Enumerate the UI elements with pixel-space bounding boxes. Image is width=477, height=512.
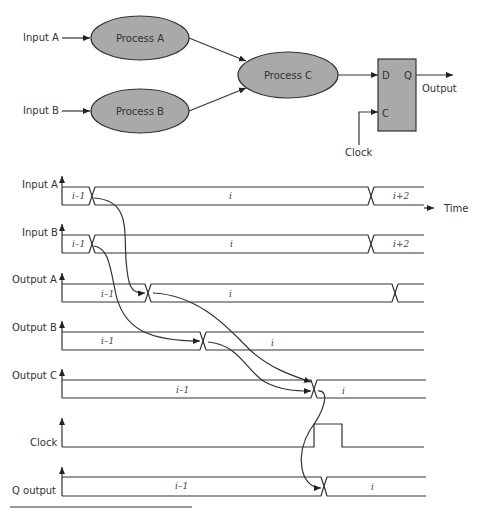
signal-label: Output C xyxy=(12,370,57,381)
segment-label: i–1 xyxy=(175,481,188,491)
flipflop-c-label: C xyxy=(382,108,389,119)
segment-label: i xyxy=(371,482,374,492)
signal-q-output: Q output i–1 i xyxy=(12,467,426,496)
segment-label: i+2 xyxy=(393,191,409,201)
clock-label: Clock xyxy=(345,147,372,158)
segment-label: i–1 xyxy=(176,385,189,395)
signal-label: Input B xyxy=(22,227,58,238)
segment-label: i xyxy=(271,338,274,348)
output-label: Output xyxy=(422,83,457,94)
segment-label: i xyxy=(342,386,345,396)
signal-label: Output B xyxy=(12,322,57,333)
signal-output-b: Output B i–1 i xyxy=(12,321,424,350)
clock-input-arrow xyxy=(359,112,378,145)
input-a-label: Input A xyxy=(23,32,59,43)
segment-label: i xyxy=(229,289,232,299)
segment-label: i–1 xyxy=(101,289,114,299)
input-b-label: Input B xyxy=(23,105,59,116)
process-a-label: Process A xyxy=(116,33,164,44)
segment-label: i xyxy=(229,191,232,201)
signal-label: Output A xyxy=(12,274,57,285)
signal-input-b: Input B i–1 i i+2 xyxy=(22,224,424,253)
timing-diagram: Input A Time i–1 i i+2 Input B i–1 i i+2… xyxy=(12,176,468,496)
flipflop-d-label: D xyxy=(382,70,390,81)
signal-output-c: Output C i–1 i xyxy=(12,369,426,398)
segment-label: i+2 xyxy=(393,239,409,249)
output-a-to-output-c-arrow xyxy=(153,293,311,382)
block-diagram: Input A Input B Process A Process B Proc… xyxy=(23,16,457,158)
segment-label: i xyxy=(230,239,233,249)
b-to-c-arrow xyxy=(189,88,246,111)
signal-label: Q output xyxy=(12,485,56,496)
causality-arrows xyxy=(94,198,325,488)
a-to-c-arrow xyxy=(189,38,246,61)
timing-diagram-figure: Input A Input B Process A Process B Proc… xyxy=(0,0,477,512)
segment-label: i–1 xyxy=(72,191,85,201)
process-c-label: Process C xyxy=(264,70,312,81)
signal-clock: Clock xyxy=(30,418,424,448)
clock-waveform xyxy=(62,424,424,447)
output-c-to-q-arrow xyxy=(301,391,324,488)
process-b-label: Process B xyxy=(116,106,164,117)
output-b-to-output-c-arrow xyxy=(208,342,311,391)
input-a-to-output-a-arrow xyxy=(94,198,145,293)
signal-input-a: Input A Time i–1 i i+2 xyxy=(22,176,468,214)
signal-output-a: Output A i–1 i xyxy=(12,273,424,302)
segment-label: i–1 xyxy=(101,336,114,346)
flipflop-q-label: Q xyxy=(404,70,412,81)
signal-label: Input A xyxy=(22,179,58,190)
time-label: Time xyxy=(443,203,468,214)
segment-label: i–1 xyxy=(72,239,85,249)
signal-label: Clock xyxy=(30,437,57,448)
